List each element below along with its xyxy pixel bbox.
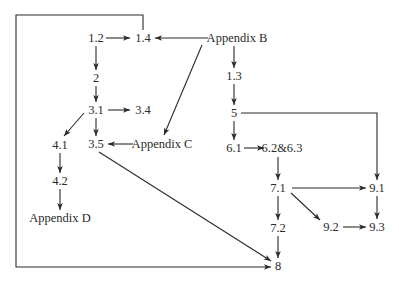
node-1-4: 1.4	[135, 32, 151, 45]
node-1-2: 1.2	[88, 32, 104, 45]
node-7-2: 7.2	[270, 222, 286, 235]
node-appendix-c: Appendix C	[132, 138, 193, 151]
node-8: 8	[275, 260, 281, 273]
node-2: 2	[93, 72, 99, 85]
edge-3-1-to-4-1	[64, 113, 84, 136]
edge-appendix-b-to-appendix-c	[164, 45, 202, 135]
node-6-1: 6.1	[226, 142, 242, 155]
node-9-1: 9.1	[369, 182, 385, 195]
node-3-1: 3.1	[88, 104, 104, 117]
node-3-4: 3.4	[135, 104, 151, 117]
node-9-3: 9.3	[369, 221, 385, 234]
node-3-5: 3.5	[88, 138, 104, 151]
node-5: 5	[231, 107, 237, 120]
node-9-2: 9.2	[323, 221, 339, 234]
edge-3-5-to-8	[99, 152, 271, 261]
node-4-1: 4.1	[52, 139, 68, 152]
node-1-3: 1.3	[226, 70, 242, 83]
node-appendix-d: Appendix D	[29, 212, 90, 225]
edge-7-1-to-9-2	[291, 193, 320, 220]
node-7-1: 7.1	[270, 182, 286, 195]
node-6-2-and-6-3: 6.2&6.3	[262, 142, 303, 155]
node-4-2: 4.2	[52, 175, 68, 188]
node-appendix-b: Appendix B	[207, 32, 268, 45]
